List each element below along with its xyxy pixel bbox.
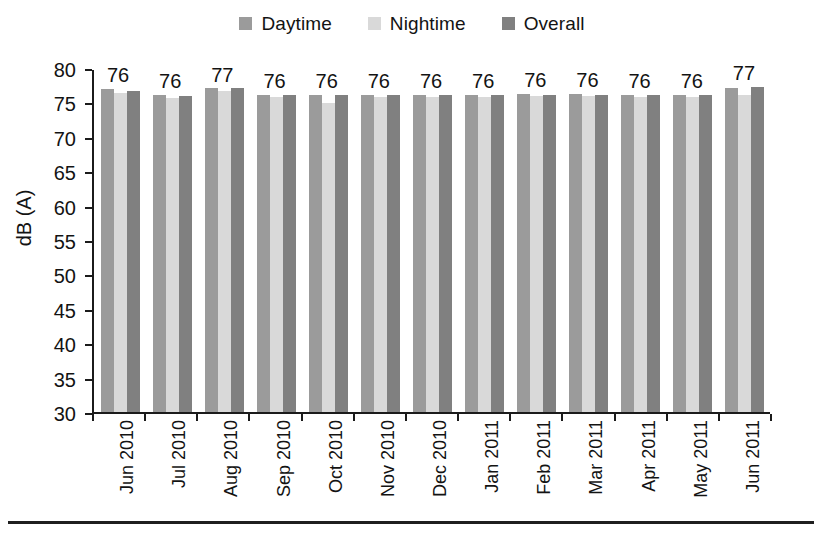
bar-daytime[interactable] <box>465 95 478 412</box>
y-tick-mark <box>85 344 92 346</box>
bar-group <box>458 70 510 412</box>
bar-overall[interactable] <box>439 95 452 412</box>
y-tick-mark <box>85 103 92 105</box>
x-tick-label: Mar 2011 <box>587 420 605 512</box>
y-tick-mark <box>85 413 92 415</box>
bar-daytime[interactable] <box>725 88 738 412</box>
y-tick-label: 60 <box>34 198 76 218</box>
bar-chart-figure: DaytimeNightimeOverall dB (A) 8075706560… <box>0 0 824 535</box>
bar-nightime[interactable] <box>114 93 127 412</box>
bar-nightime[interactable] <box>478 97 491 412</box>
x-tick-label: Feb 2011 <box>535 420 553 512</box>
y-axis: dB (A) 8075706560555045403530 <box>0 0 92 535</box>
bar-nightime[interactable] <box>530 96 543 412</box>
bar-value-label: 76 <box>613 71 667 91</box>
y-tick-label: 55 <box>34 232 76 252</box>
bottom-divider <box>8 521 814 524</box>
bar-value-label: 76 <box>300 71 354 91</box>
x-label-slot: Apr 2011 <box>614 420 666 512</box>
bar-group <box>302 70 354 412</box>
bar-daytime[interactable] <box>153 95 166 412</box>
bar-nightime[interactable] <box>426 97 439 412</box>
bar-nightime[interactable] <box>218 91 231 412</box>
bar-group <box>718 70 770 412</box>
bar-value-label: 76 <box>248 71 302 91</box>
x-tick-mark <box>770 414 772 421</box>
y-tick-mark <box>85 207 92 209</box>
x-tick-label: Jun 2010 <box>118 420 136 512</box>
bar-value-label: 76 <box>91 65 145 85</box>
plot-area <box>92 70 770 414</box>
bar-nightime[interactable] <box>634 97 647 412</box>
bar-overall[interactable] <box>231 88 244 412</box>
bar-daytime[interactable] <box>621 95 634 412</box>
bar-overall[interactable] <box>127 91 140 412</box>
bar-nightime[interactable] <box>270 97 283 412</box>
x-tick-label: Sep 2010 <box>275 420 293 512</box>
bar-overall[interactable] <box>179 96 192 412</box>
y-tick-mark <box>85 310 92 312</box>
y-tick-label: 75 <box>34 94 76 114</box>
legend-swatch-icon <box>239 17 252 30</box>
bar-group <box>250 70 302 412</box>
bar-daytime[interactable] <box>205 88 218 412</box>
chart-legend: DaytimeNightimeOverall <box>0 14 824 33</box>
bar-daytime[interactable] <box>309 95 322 412</box>
bar-overall[interactable] <box>751 87 764 412</box>
bar-nightime[interactable] <box>738 95 751 412</box>
bar-value-label: 76 <box>352 71 406 91</box>
y-tick-label: 30 <box>34 404 76 424</box>
bar-overall[interactable] <box>543 95 556 412</box>
bar-group <box>354 70 406 412</box>
y-tick-label: 80 <box>34 60 76 80</box>
bar-group <box>146 70 198 412</box>
bar-daytime[interactable] <box>101 89 114 412</box>
x-tick-label: Dec 2010 <box>431 420 449 512</box>
bar-group <box>666 70 718 412</box>
legend-item-daytime[interactable]: Daytime <box>239 14 331 33</box>
bar-overall[interactable] <box>647 95 660 412</box>
bar-overall[interactable] <box>387 95 400 412</box>
bar-daytime[interactable] <box>361 95 374 412</box>
bar-nightime[interactable] <box>166 98 179 412</box>
y-tick-label: 35 <box>34 370 76 390</box>
y-tick-label: 45 <box>34 301 76 321</box>
bar-value-label: 76 <box>456 71 510 91</box>
bar-group <box>198 70 250 412</box>
legend-swatch-icon <box>368 17 381 30</box>
x-label-slot: Oct 2010 <box>301 420 353 512</box>
bar-overall[interactable] <box>283 95 296 412</box>
bar-nightime[interactable] <box>374 97 387 412</box>
bar-nightime[interactable] <box>582 96 595 412</box>
bar-nightime[interactable] <box>686 97 699 412</box>
data-labels: 76767776767676767676767677 <box>92 40 770 74</box>
x-tick-label: Nov 2010 <box>379 420 397 512</box>
bar-value-label: 76 <box>404 71 458 91</box>
bar-daytime[interactable] <box>257 95 270 412</box>
bar-overall[interactable] <box>491 95 504 412</box>
y-tick-mark <box>85 379 92 381</box>
bar-daytime[interactable] <box>517 94 530 412</box>
x-tick-label: Jul 2010 <box>170 420 188 512</box>
bar-overall[interactable] <box>699 95 712 412</box>
x-label-slot: Jul 2010 <box>144 420 196 512</box>
y-tick-mark <box>85 241 92 243</box>
bar-group <box>614 70 666 412</box>
bar-group <box>562 70 614 412</box>
bar-daytime[interactable] <box>569 94 582 412</box>
bar-value-label: 76 <box>560 70 614 90</box>
bar-daytime[interactable] <box>413 95 426 412</box>
y-tick-label: 65 <box>34 163 76 183</box>
bar-overall[interactable] <box>595 95 608 412</box>
bar-value-label: 76 <box>143 71 197 91</box>
bar-daytime[interactable] <box>673 95 686 412</box>
y-tick-mark <box>85 172 92 174</box>
bar-value-label: 76 <box>508 70 562 90</box>
x-tick-label: Aug 2010 <box>222 420 240 512</box>
bar-nightime[interactable] <box>322 103 335 412</box>
legend-item-overall[interactable]: Overall <box>502 14 585 33</box>
legend-label: Daytime <box>261 14 331 33</box>
bar-overall[interactable] <box>335 95 348 412</box>
legend-item-nightime[interactable]: Nightime <box>368 14 466 33</box>
bar-group <box>510 70 562 412</box>
